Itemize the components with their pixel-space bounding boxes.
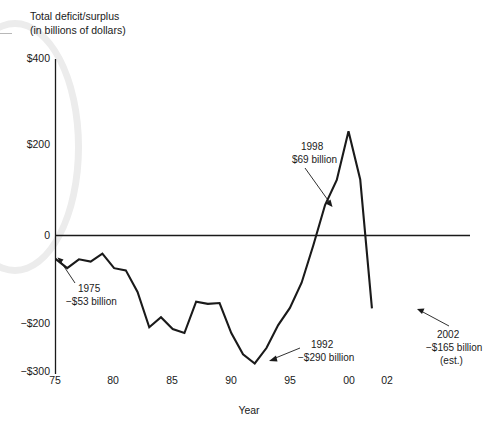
x-tick-label-85: 85 — [166, 374, 178, 386]
annotation-1992-year: 1992 — [311, 339, 334, 350]
annotation-1975-value: −$53 billion — [66, 296, 117, 307]
annotation-1992-value: −$290 billion — [298, 352, 354, 363]
y-tick-label-200: $200 — [27, 138, 51, 150]
annotation-1975: 1975 −$53 billion — [58, 258, 117, 308]
annotation-1992-leader — [273, 348, 300, 359]
x-tick-label-80: 80 — [107, 374, 119, 386]
annotation-2002: 2002 −$165 billion (est.) — [417, 309, 482, 367]
x-tick-label-75: 75 — [49, 374, 61, 386]
annotation-1975-year: 1975 — [78, 283, 101, 294]
annotation-1998-value: $69 billion — [292, 154, 337, 165]
chart-figure: Total deficit/surplus (in billions of do… — [0, 0, 497, 430]
y-tick-label-0: 0 — [44, 229, 50, 241]
y-tick-label-neg300: −$300 — [21, 365, 51, 377]
chart-subtitle: (in billions of dollars) — [30, 24, 126, 36]
annotation-2002-leader — [421, 311, 449, 326]
annotation-1998-year: 1998 — [301, 141, 324, 152]
y-tick-label-400: $400 — [27, 52, 51, 64]
annotation-2002-note: (est.) — [440, 355, 463, 366]
annotation-2002-value: −$165 billion — [426, 342, 482, 353]
annotation-1975-leader — [59, 259, 75, 283]
annotation-1998: 1998 $69 billion — [292, 141, 337, 207]
x-tick-label-02: 02 — [381, 374, 393, 386]
chart-title: Total deficit/surplus — [30, 10, 119, 22]
y-tick-label-neg200: −$200 — [21, 317, 51, 329]
x-tick-label-00: 00 — [343, 374, 355, 386]
annotation-2002-year: 2002 — [437, 329, 460, 340]
deficit-surplus-line-chart: Total deficit/surplus (in billions of do… — [0, 0, 497, 430]
x-axis-title: Year — [238, 404, 260, 416]
annotation-1998-leader — [305, 168, 330, 203]
annotation-1992: 1992 −$290 billion — [269, 339, 354, 363]
annotation-2002-arrowhead — [417, 309, 425, 315]
x-tick-label-90: 90 — [225, 374, 237, 386]
annotation-1992-arrowhead — [269, 356, 278, 362]
data-series-line — [56, 131, 372, 363]
x-tick-label-95: 95 — [284, 374, 296, 386]
